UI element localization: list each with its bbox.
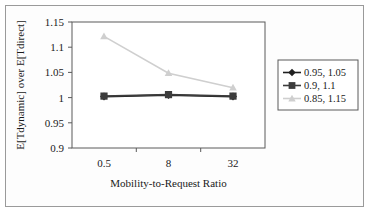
chart-figure: 1.15 1.1 1.05 1 0.95 0.9 0.5 8 32 Mobili… bbox=[0, 0, 370, 214]
legend-label-1: 0.9, 1.1 bbox=[304, 80, 336, 91]
y-tick-label-4: 1.1 bbox=[50, 41, 64, 53]
x-tick-label-0: 0.5 bbox=[97, 157, 111, 169]
square-marker-icon bbox=[289, 82, 296, 89]
y-axis-tick-labels: 1.15 1.1 1.05 1 0.95 0.9 bbox=[45, 16, 65, 154]
y-tick-label-1: 0.95 bbox=[45, 117, 65, 129]
legend-label-2: 0.85, 1.15 bbox=[304, 93, 346, 104]
square-marker-icon bbox=[100, 93, 107, 100]
y-axis-ticks bbox=[68, 22, 72, 148]
x-axis-tick-labels: 0.5 8 32 bbox=[97, 157, 238, 169]
line-chart: 1.15 1.1 1.05 1 0.95 0.9 0.5 8 32 Mobili… bbox=[0, 0, 370, 214]
x-axis-ticks bbox=[136, 148, 200, 152]
chart-legend: 0.95, 1.05 0.9, 1.1 0.85, 1.15 bbox=[278, 60, 358, 110]
square-marker-icon bbox=[165, 91, 172, 98]
plot-area-frame bbox=[72, 22, 265, 148]
y-axis-title: E[Tdynamic] over E[Tdirect] bbox=[14, 20, 26, 150]
x-axis-title: Mobility-to-Request Ratio bbox=[110, 177, 227, 189]
y-tick-label-2: 1 bbox=[59, 92, 65, 104]
y-tick-label-3: 1.05 bbox=[45, 66, 65, 78]
y-tick-label-5: 1.15 bbox=[45, 16, 65, 28]
legend-label-0: 0.95, 1.05 bbox=[304, 67, 346, 78]
x-tick-label-1: 8 bbox=[166, 157, 172, 169]
x-tick-label-2: 32 bbox=[228, 157, 239, 169]
square-marker-icon bbox=[229, 93, 236, 100]
y-tick-label-0: 0.9 bbox=[50, 142, 64, 154]
